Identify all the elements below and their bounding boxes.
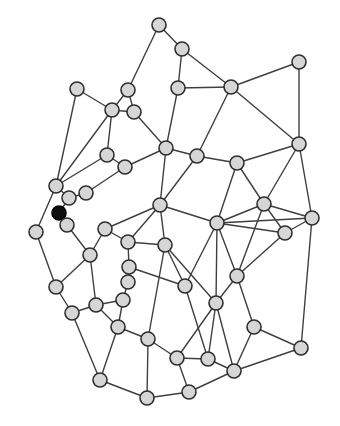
graph-edge [216,303,234,371]
graph-edge [237,276,254,327]
graph-edge [160,156,197,205]
graph-node [121,83,135,97]
graph-node [175,42,189,56]
graph-node [201,352,215,366]
graph-edge [185,286,208,359]
graph-node [159,141,173,155]
graph-node [122,260,136,274]
graph-node [170,351,184,365]
graph-node [141,332,155,346]
graph-edge [217,218,312,223]
graph-node [190,149,204,163]
graph-node [79,186,93,200]
edge-layer [36,25,312,398]
graph-edge [165,245,216,303]
graph-node [60,218,74,232]
graph-node [230,269,244,283]
graph-node [182,385,196,399]
graph-edge [56,155,107,186]
graph-edge [301,218,312,348]
graph-node [158,238,172,252]
graph-node [116,293,130,307]
graph-edge [178,87,231,88]
graph-node [121,235,135,249]
graph-node [127,105,141,119]
graph-edge [160,205,217,223]
graph-node [100,148,114,162]
graph-node [29,225,43,239]
graph-node [171,81,185,95]
graph-edge [237,233,285,276]
graph-node [292,137,306,151]
graph-node [49,179,63,193]
graph-edge [100,327,118,380]
graph-node [209,296,223,310]
graph-edge [216,223,217,303]
graph-edge [217,223,237,276]
graph-node [292,55,306,69]
graph-node [178,279,192,293]
graph-node [111,320,125,334]
graph-node [257,197,271,211]
diagram-canvas [0,0,340,426]
graph-edge [160,148,166,205]
node-layer [29,18,319,405]
graph-node [305,211,319,225]
graph-edge [217,163,237,223]
graph-node [278,226,292,240]
graph-node [230,156,244,170]
graph-edge [72,313,100,380]
graph-edge [197,87,231,156]
graph-node [65,306,79,320]
graph-node [98,222,112,236]
graph-edge [231,62,299,87]
graph-edge [36,232,56,287]
graph-edge [234,348,301,371]
graph-edge [148,245,165,339]
graph-edge [128,25,159,90]
graph-node [140,391,154,405]
graph-edge [182,49,231,87]
graph-node [62,191,76,205]
graph-node [247,320,261,334]
graph-node [153,198,167,212]
graph-edge [299,144,312,218]
graph-edge [237,204,264,276]
graph-node [83,248,97,262]
graph-node [70,82,84,96]
graph-edge [105,205,160,229]
graph-node [152,18,166,32]
network-graph [0,0,340,426]
graph-edge [177,303,216,358]
graph-edge [147,339,148,398]
graph-node [210,216,224,230]
graph-edge [185,223,217,286]
graph-node [121,275,135,289]
graph-node [224,80,238,94]
graph-node [227,364,241,378]
graph-edge [231,87,299,144]
graph-node [93,373,107,387]
graph-node [105,103,119,117]
graph-node [294,341,308,355]
graph-edge [217,223,285,233]
graph-node [89,298,103,312]
graph-edge [166,88,178,148]
graph-node [49,280,63,294]
graph-node [118,160,132,174]
